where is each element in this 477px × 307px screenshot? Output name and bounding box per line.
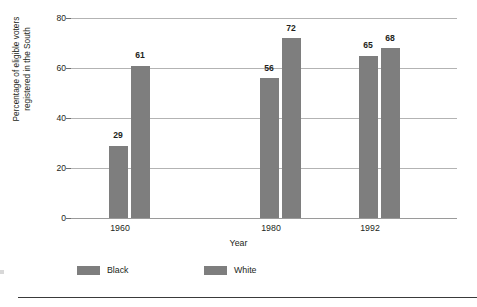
- x-tick-label-1960: 1960: [90, 224, 150, 233]
- tick-mark-0: [66, 218, 71, 219]
- gridline-0-baseline: [71, 218, 457, 219]
- legend-swatch-black-icon: [77, 266, 100, 275]
- legend-label-black: Black: [107, 265, 129, 276]
- legend-swatch-white-icon: [204, 266, 227, 275]
- y-tick-label-20: 20: [26, 164, 66, 173]
- x-tick-label-1992: 1992: [340, 224, 400, 233]
- bar-value-1992-black: 65: [353, 41, 383, 50]
- gridline-80: [71, 18, 457, 19]
- y-tick-label-0: 0: [26, 214, 66, 223]
- bar-value-1960-white: 61: [125, 51, 155, 60]
- bottom-rule-divider: [18, 297, 477, 298]
- page-edge-artifact: [0, 270, 4, 274]
- tick-mark-40: [66, 118, 71, 119]
- bar-1960-black[interactable]: [109, 146, 128, 219]
- tick-mark-80: [66, 18, 71, 19]
- bar-value-1980-black: 56: [254, 64, 284, 73]
- tick-mark-60: [66, 68, 71, 69]
- bar-value-1992-white: 68: [375, 34, 405, 43]
- tick-mark-20: [66, 168, 71, 169]
- bar-value-1960-black: 29: [103, 131, 133, 140]
- bar-1992-white[interactable]: [381, 48, 400, 218]
- bar-1980-black[interactable]: [260, 78, 279, 218]
- bar-value-1980-white: 72: [276, 24, 306, 33]
- x-axis-title: Year: [0, 238, 477, 248]
- bar-1960-white[interactable]: [131, 66, 150, 219]
- bar-1992-black[interactable]: [359, 56, 378, 219]
- bar-chart-figure: Percentage of eligible voters registered…: [0, 0, 477, 307]
- x-tick-label-1980: 1980: [241, 224, 301, 233]
- y-tick-label-80: 80: [26, 14, 66, 23]
- bar-1980-white[interactable]: [282, 38, 301, 218]
- legend-label-white: White: [234, 265, 257, 276]
- y-axis-title-line1: Percentage of eligible voters: [12, 17, 21, 122]
- y-tick-label-40: 40: [26, 114, 66, 123]
- plot-area: 80 60 40 20 0 29 61 1960 56 72 1980 65 6…: [71, 18, 457, 218]
- y-tick-label-60: 60: [26, 64, 66, 73]
